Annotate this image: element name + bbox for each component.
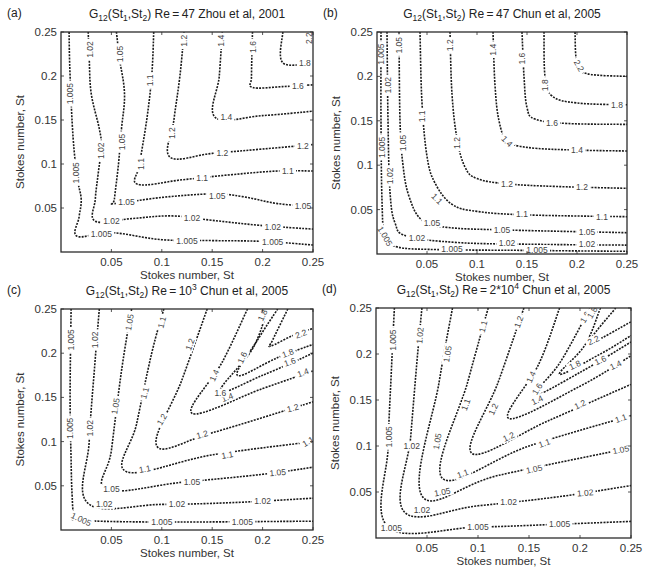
svg-text:1.8: 1.8 — [299, 58, 311, 68]
svg-text:1.1: 1.1 — [282, 166, 294, 176]
contour-label: 1.05 — [123, 311, 137, 334]
svg-text:1.02: 1.02 — [383, 77, 393, 94]
svg-text:1.02: 1.02 — [385, 167, 395, 184]
contour-label: 1.2 — [214, 148, 230, 158]
svg-text:1.02: 1.02 — [576, 487, 594, 498]
svg-text:1.005: 1.005 — [262, 237, 284, 247]
contour-line-1.1 — [134, 32, 313, 185]
contour-label: 1.8 — [540, 77, 550, 93]
contour-line-1.05 — [101, 309, 313, 491]
contour-label: 1.05 — [394, 35, 404, 56]
x-tick-label: 0.2 — [255, 256, 271, 268]
y-tick-label: 0.1 — [41, 158, 57, 170]
contour-label: 1.02 — [262, 222, 283, 232]
svg-text:1.05: 1.05 — [525, 462, 544, 475]
figure-canvas: (a)G12(St1,St2) Re = 47 Zhou et al, 2001… — [0, 0, 652, 575]
contour-line-1.2 — [470, 308, 631, 454]
contour-label: 1.4 — [216, 33, 226, 49]
svg-text:1.02: 1.02 — [96, 499, 113, 509]
svg-text:1.02: 1.02 — [499, 238, 516, 248]
svg-text:1.05: 1.05 — [579, 227, 596, 237]
contour-label: 1.05 — [609, 443, 632, 457]
contour-line-1.05 — [110, 32, 313, 206]
contour-label: 1.02 — [252, 496, 273, 506]
contour-lines: 1.0051.0051.0051.0051.0051.021.021.021.0… — [65, 306, 318, 530]
contour-label: 1.2 — [445, 37, 455, 53]
chart-title: G12(St1,St2) Re = 47 Chun et al, 2005 — [403, 7, 601, 23]
svg-text:1.1: 1.1 — [596, 212, 608, 222]
svg-text:1.6: 1.6 — [248, 41, 258, 53]
svg-text:1.6: 1.6 — [214, 388, 226, 398]
contour-label: 1.1 — [453, 466, 472, 481]
contour-label: 1.05 — [267, 467, 289, 479]
contour-label: 1.1 — [458, 395, 473, 414]
svg-text:1.05: 1.05 — [209, 191, 226, 201]
contour-label: 1.1 — [138, 384, 152, 402]
panel-letter: (c) — [7, 283, 21, 297]
contour-label: 1.02 — [496, 238, 517, 248]
contour-label: 1.1 — [194, 173, 210, 183]
contour-lines: 1.0051.0051.0051.0051.0051.021.021.021.0… — [374, 32, 627, 255]
svg-text:1.1: 1.1 — [417, 110, 427, 122]
contour-label: 1.005 — [66, 327, 76, 353]
svg-text:1.02: 1.02 — [500, 497, 517, 507]
y-tick-label: 0.1 — [356, 440, 372, 452]
svg-text:1.1: 1.1 — [138, 463, 152, 475]
y-axis-label: Stokes number, St — [329, 375, 341, 470]
contour-label: 1.6 — [517, 50, 527, 66]
svg-text:1.2: 1.2 — [216, 148, 228, 158]
x-tick-label: 0.2 — [255, 534, 271, 546]
contour-label: 1.4 — [569, 145, 585, 155]
contour-label: 1.6 — [234, 348, 250, 367]
svg-text:1.1: 1.1 — [145, 74, 155, 86]
contour-line-1.4 — [212, 32, 313, 120]
y-tick-label: 0.25 — [35, 26, 57, 38]
svg-text:1.005: 1.005 — [176, 236, 198, 246]
contour-label: 1.05 — [181, 477, 202, 487]
y-tick-label: 0.15 — [35, 114, 57, 126]
panel-letter: (d) — [322, 282, 337, 296]
panel-letter: (a) — [7, 6, 22, 20]
contour-label: 1.1 — [218, 449, 236, 462]
svg-text:1.05: 1.05 — [115, 45, 125, 62]
svg-text:1.05: 1.05 — [494, 225, 511, 235]
contour-line-1.4 — [493, 32, 627, 151]
contour-line-1.8 — [237, 309, 313, 376]
svg-text:1.2: 1.2 — [297, 141, 309, 151]
svg-text:1.05: 1.05 — [118, 197, 135, 207]
svg-text:1.02: 1.02 — [414, 505, 431, 515]
svg-text:1.1: 1.1 — [196, 173, 208, 183]
contour-label: 1.05 — [398, 132, 408, 153]
svg-text:1.005: 1.005 — [69, 510, 93, 528]
contour-label: 1.005 — [65, 415, 75, 441]
svg-text:1.2: 1.2 — [576, 182, 588, 192]
contour-line-1.2 — [167, 32, 313, 159]
contour-label: 1.005 — [378, 523, 404, 533]
svg-text:1.02: 1.02 — [264, 222, 281, 232]
x-tick-label: 0.25 — [620, 542, 642, 554]
contour-lines: 1.0051.0051.0051.0051.0051.021.021.021.0… — [65, 30, 314, 247]
svg-text:1.02: 1.02 — [85, 420, 95, 437]
contour-label: 1.02 — [406, 233, 427, 243]
svg-text:1.05: 1.05 — [431, 432, 444, 450]
y-tick-label: 0.2 — [357, 70, 373, 82]
contour-label: 1.02 — [166, 499, 187, 509]
x-tick-label: 0.15 — [518, 542, 540, 554]
contour-label: 1.02 — [401, 441, 422, 451]
x-tick-label: 0.05 — [416, 542, 438, 554]
contour-label: 1.05 — [116, 197, 137, 207]
contour-label: 1.05 — [207, 191, 228, 201]
panel-a: (a)G12(St1,St2) Re = 47 Zhou et al, 2001… — [7, 6, 324, 281]
contour-label: 1.005 — [229, 517, 255, 527]
contour-label: 1.1 — [155, 313, 169, 331]
contour-label: 1.4 — [488, 42, 498, 58]
contour-label: 1.1 — [476, 317, 490, 335]
contour-label: 1.02 — [383, 75, 393, 96]
contour-label: 1.02 — [385, 165, 395, 186]
svg-text:1.005: 1.005 — [377, 136, 387, 158]
svg-text:1.4: 1.4 — [220, 112, 232, 122]
svg-text:1.05: 1.05 — [295, 201, 312, 211]
contour-label: 1.005 — [67, 509, 95, 529]
contour-label: 1.2 — [182, 335, 197, 354]
contour-label: 1.005 — [88, 229, 114, 239]
